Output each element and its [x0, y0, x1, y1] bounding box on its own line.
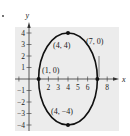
ellipse-chart: y x 2 3 4 5 6 8 4 3 2 1 −1 — [0, 0, 130, 136]
svg-text:−1: −1 — [17, 86, 25, 95]
svg-text:8: 8 — [105, 83, 109, 92]
label-7-0: (7, 0) — [86, 37, 104, 46]
point-1-0 — [37, 77, 41, 81]
svg-text:−3: −3 — [17, 109, 25, 118]
svg-text:6: 6 — [86, 83, 90, 92]
marker-dot — [2, 15, 4, 17]
svg-text:−2: −2 — [17, 98, 25, 107]
y-axis-arrow-icon — [27, 22, 30, 28]
point-4-neg4 — [66, 123, 70, 127]
label-4-4: (4, 4) — [53, 41, 71, 50]
svg-text:1: 1 — [21, 63, 25, 72]
svg-text:2: 2 — [47, 83, 51, 92]
point-7-0 — [95, 77, 99, 81]
svg-text:−4: −4 — [17, 121, 25, 130]
svg-text:4: 4 — [21, 29, 25, 38]
svg-text:5: 5 — [76, 83, 80, 92]
svg-text:2: 2 — [21, 52, 25, 61]
svg-text:3: 3 — [56, 83, 60, 92]
y-axis-label: y — [25, 11, 30, 20]
svg-text:4: 4 — [66, 83, 70, 92]
x-axis-label: x — [121, 75, 126, 84]
point-4-4 — [66, 31, 70, 35]
label-1-0: (1, 0) — [42, 66, 60, 75]
svg-text:3: 3 — [21, 40, 25, 49]
label-4-neg4: (4, −4) — [51, 107, 73, 116]
